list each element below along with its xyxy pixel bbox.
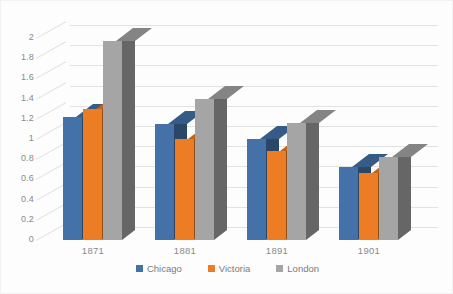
bar-front-face [379, 157, 398, 240]
bar-front-face [359, 173, 378, 240]
x-axis-tick-label: 1881 [150, 245, 220, 256]
bar-front-face [339, 167, 358, 240]
legend-item-chicago[interactable]: Chicago [136, 263, 182, 274]
bar-london-1881 [195, 99, 214, 240]
bar-front-face [267, 151, 286, 240]
bar-side-face [122, 31, 135, 240]
gridline-connector [36, 142, 66, 160]
bar-chicago-1901 [339, 167, 358, 240]
chart-container: 00.20.40.60.811.21.41.61.82 187118811891… [0, 0, 453, 294]
chart-legend: ChicagoVictoriaLondon [1, 263, 453, 274]
legend-swatch-icon [136, 265, 143, 272]
bar-top-face [300, 110, 336, 123]
bar-chicago-1881 [155, 124, 174, 240]
bar-front-face [195, 99, 214, 240]
bar-front-face [103, 41, 122, 240]
y-axis-tick-label: 0.8 [6, 153, 34, 163]
bar-front-face [287, 123, 306, 240]
bar-chicago-1871 [63, 117, 82, 240]
y-axis-tick-label: 0.2 [6, 214, 34, 224]
x-axis-tick-label: 1871 [58, 245, 128, 256]
gridline-connector [36, 82, 66, 100]
gridline-connector [36, 21, 66, 39]
legend-label: Chicago [147, 263, 182, 274]
bar-victoria-1901 [359, 173, 378, 240]
bar-side-face [398, 147, 411, 240]
bar-front-face [155, 124, 174, 240]
y-axis-tick-label: 1.2 [6, 113, 34, 123]
y-axis-tick-label: 0 [6, 234, 34, 244]
gridline-connector [36, 163, 66, 181]
gridline-connector [36, 102, 66, 120]
bar-front-face [83, 109, 102, 240]
bar-victoria-1871 [83, 109, 102, 240]
gridline-connector [36, 62, 66, 80]
y-axis-tick-label: 0.4 [6, 194, 34, 204]
y-axis-tick-label: 0.6 [6, 173, 34, 183]
legend-item-victoria[interactable]: Victoria [208, 263, 251, 274]
bar-victoria-1891 [267, 151, 286, 240]
y-axis-tick-label: 1.8 [6, 52, 34, 62]
bar-london-1871 [103, 41, 122, 240]
y-axis-tick-label: 1.4 [6, 93, 34, 103]
y-axis-tick-label: 1 [6, 133, 34, 143]
gridline-connector [36, 203, 66, 221]
legend-swatch-icon [208, 265, 215, 272]
bar-london-1901 [379, 157, 398, 240]
gridline-connector [36, 223, 66, 241]
bar-victoria-1881 [175, 139, 194, 240]
bar-top-face [116, 28, 152, 41]
plot-area: 00.20.40.60.811.21.41.61.82 187118811891… [1, 1, 453, 294]
bar-top-face [208, 86, 244, 99]
bar-side-face [306, 113, 319, 240]
x-axis-tick-label: 1901 [334, 245, 404, 256]
bar-front-face [63, 117, 82, 240]
bar-london-1891 [287, 123, 306, 240]
legend-swatch-icon [276, 265, 283, 272]
legend-label: London [287, 263, 319, 274]
legend-item-london[interactable]: London [276, 263, 319, 274]
gridline-connector [36, 41, 66, 59]
gridline [70, 25, 438, 26]
legend-label: Victoria [219, 263, 251, 274]
gridline-connector [36, 183, 66, 201]
bar-chicago-1891 [247, 139, 266, 240]
bar-side-face [214, 89, 227, 240]
y-axis-tick-label: 1.6 [6, 72, 34, 82]
bar-front-face [175, 139, 194, 240]
bar-front-face [247, 139, 266, 240]
gridline-connector [36, 122, 66, 140]
y-axis-tick-label: 2 [6, 32, 34, 42]
x-axis-tick-label: 1891 [242, 245, 312, 256]
